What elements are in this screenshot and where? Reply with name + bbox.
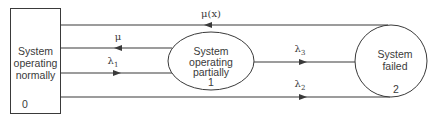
state-0-line-2: operating [14,57,58,69]
label-lambda-1: λ1 [108,55,119,69]
state-0-number: 0 [22,98,28,110]
transition-1-to-2: λ3 [254,43,355,62]
state-2-failed: System failed 2 [355,25,427,97]
state-1-partial: System operating partially 1 [168,32,254,90]
label-mu: μ [115,31,122,42]
label-mu-x: μ(x) [201,8,221,19]
label-lambda-3: λ3 [295,43,306,57]
state-0-line-1: System [18,45,53,57]
state-2-line-1: System [377,48,412,60]
state-0-line-3: normally [16,69,56,81]
label-lambda-2: λ2 [295,78,306,92]
state-1-number: 1 [208,76,214,88]
state-2-line-2: failed [382,60,407,72]
state-2-number: 2 [393,83,399,95]
state-0-normal: System operating normally 0 [11,9,61,114]
state-diagram: System operating normally 0 μ(x) μ λ1 Sy… [0,0,439,119]
transition-2-to-0: μ(x) [61,8,389,25]
transition-1-to-0: μ [61,31,173,48]
transition-0-to-1: λ1 [61,55,173,73]
